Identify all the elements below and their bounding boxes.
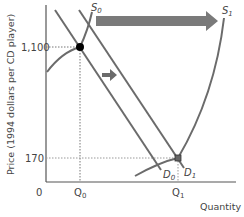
equilibrium-point-initial — [76, 43, 84, 51]
x-axis-label: Quantity — [200, 201, 241, 212]
equilibrium-point-final — [175, 155, 181, 161]
d1-label: D1 — [184, 167, 196, 180]
quantity-tick-q0: Q0 — [74, 187, 86, 200]
d0-label: D0 — [163, 169, 176, 182]
s1-label: S1 — [222, 5, 233, 18]
demand-shift-arrow — [102, 69, 117, 81]
quantity-tick-q1: Q1 — [172, 187, 184, 200]
price-tick-1100: 1,100 — [21, 42, 50, 53]
supply-shift-arrow — [96, 11, 218, 31]
supply-demand-diagram: Price (1994 dollars per CD player) 1,100… — [0, 0, 244, 217]
y-axis-label: Price (1994 dollars per CD player) — [5, 14, 16, 175]
demand-curve-d1 — [79, 10, 184, 168]
origin-label: 0 — [36, 187, 42, 198]
demand-curve-d0 — [55, 10, 161, 170]
price-tick-170: 170 — [25, 153, 44, 164]
